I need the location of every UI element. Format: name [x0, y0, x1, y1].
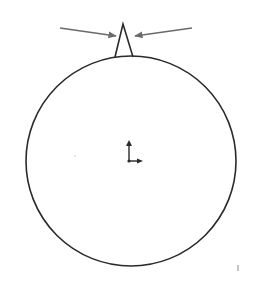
stray-dot — [74, 155, 76, 157]
triangular-spike — [115, 24, 133, 57]
right-arrow — [135, 28, 192, 36]
left-arrow — [60, 28, 116, 36]
origin-axes-icon — [126, 140, 143, 164]
sketch-canvas — [0, 0, 257, 282]
